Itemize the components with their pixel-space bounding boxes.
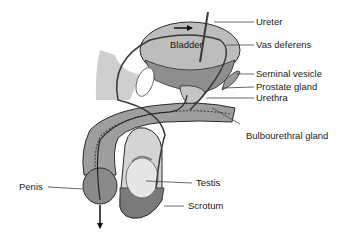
label-bladder: Bladder: [170, 40, 203, 50]
label-prostate-gland: Prostate gland: [256, 82, 317, 92]
label-urethra: Urethra: [256, 93, 288, 103]
label-vas-deferens: Vas deferens: [256, 40, 311, 50]
label-scrotum: Scrotum: [188, 201, 223, 211]
label-penis: Penis: [19, 182, 43, 192]
testis-shape: [126, 158, 158, 198]
label-testis: Testis: [196, 178, 220, 188]
label-bulbourethral-gland: Bulbourethral gland: [246, 131, 328, 141]
label-ureter: Ureter: [256, 17, 282, 27]
reproductive-anatomy-illustration: [0, 0, 354, 239]
label-seminal-vesicle: Seminal vesicle: [256, 69, 322, 79]
